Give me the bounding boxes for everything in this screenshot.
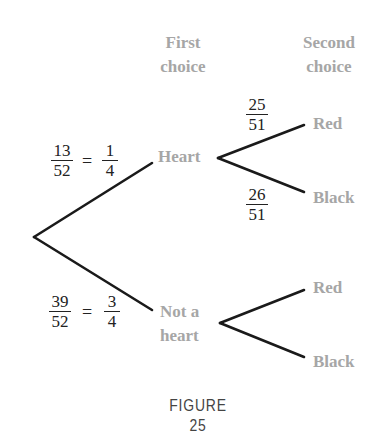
prob-heart-black-fraction: 26 51 <box>246 186 268 224</box>
tree-diagram: First choice Second choice Heart Not a h… <box>0 0 388 441</box>
header-first-line1: First <box>166 33 201 52</box>
numerator: 3 <box>104 293 120 312</box>
header-second-choice: Second choice <box>290 31 368 79</box>
prob-heart-red-fraction: 25 51 <box>246 96 268 134</box>
node-heart: Heart <box>158 145 200 169</box>
numerator: 1 <box>102 142 118 161</box>
node-not-heart-red: Red <box>313 276 342 300</box>
numerator: 39 <box>49 293 71 312</box>
header-second-line1: Second <box>303 33 355 52</box>
prob-not-heart-fraction: 39 52 <box>49 293 71 331</box>
numerator: 13 <box>51 142 73 161</box>
prob-heart-simplified: 1 4 <box>102 142 118 180</box>
denominator: 52 <box>51 161 73 180</box>
numerator: 26 <box>246 186 268 205</box>
node-heart-red: Red <box>313 112 342 136</box>
header-first-line2: choice <box>160 57 205 76</box>
denominator: 51 <box>246 115 268 134</box>
node-not-heart-line1: Not a <box>160 302 199 321</box>
node-heart-black: Black <box>313 186 355 210</box>
denominator: 4 <box>104 312 120 331</box>
numerator: 25 <box>246 96 268 115</box>
denominator: 52 <box>49 312 71 331</box>
denominator: 4 <box>102 161 118 180</box>
node-not-heart: Not a heart <box>160 300 199 348</box>
equals-sign: = <box>82 151 92 172</box>
figure-caption: FIGURE 25 <box>160 396 235 436</box>
prob-not-heart-simplified: 3 52 4 <box>104 293 120 331</box>
branch-not-heart-black <box>220 323 304 357</box>
equals-sign: = <box>82 302 92 323</box>
denominator: 51 <box>246 205 268 224</box>
header-second-line2: choice <box>306 57 351 76</box>
node-not-heart-line2: heart <box>160 326 199 345</box>
header-first-choice: First choice <box>150 31 216 79</box>
branch-not-heart-red <box>220 290 304 323</box>
node-not-heart-black: Black <box>313 350 355 374</box>
prob-heart-fraction: 13 52 <box>51 142 73 180</box>
